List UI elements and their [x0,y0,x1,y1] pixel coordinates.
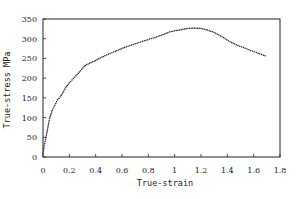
data-point [259,53,261,55]
data-point [86,64,88,66]
y-tick-label: 150 [22,94,37,103]
data-point [61,93,63,95]
data-point [104,55,106,57]
data-point [250,50,252,52]
data-point [157,36,159,38]
data-point [48,121,50,123]
data-point [43,146,45,148]
data-point [231,42,233,44]
data-point [79,71,81,73]
data-point [187,28,189,30]
data-point [50,114,52,116]
data-point [145,39,147,41]
data-point [131,44,133,46]
data-point [43,148,45,150]
data-point [43,150,45,152]
x-tick-label: 0.6 [116,166,129,175]
data-point [101,57,103,59]
plot-frame [43,19,280,157]
data-point [56,101,58,103]
data-point [156,36,158,38]
data-point [138,42,140,44]
data-point [52,108,54,110]
x-tick-label: 1.6 [247,166,260,175]
data-point [109,53,111,55]
data-point [172,30,174,32]
y-axis-ticks: 050100150200250300350 [22,15,46,162]
data-point [48,125,50,127]
data-point [60,95,62,97]
data-point [212,31,214,32]
data-point [161,34,163,36]
data-point [165,33,167,35]
data-point [205,29,207,31]
data-point [84,65,86,67]
data-point [256,52,258,54]
data-point [257,52,259,54]
data-point [58,98,60,100]
data-point [119,49,121,51]
data-point [89,63,91,65]
data-point [129,45,131,47]
data-point [254,51,256,53]
data-point [221,36,223,38]
x-tick-label: 1.4 [221,166,234,175]
data-point [174,30,176,32]
data-point [45,137,47,139]
data-point [66,86,68,88]
data-point [103,56,105,58]
x-tick-label: 1.2 [195,166,208,175]
data-point [261,54,263,56]
data-point [204,29,206,31]
data-point [70,81,72,83]
data-point [239,45,241,47]
data-point [76,74,78,76]
data-point [220,35,222,37]
x-tick-label: 0.4 [89,166,102,175]
data-point [100,57,102,59]
data-point [264,55,266,57]
data-point [202,28,204,30]
data-point [236,44,238,46]
data-point [167,32,169,34]
data-point [151,38,153,40]
data-point [121,48,123,50]
data-point [67,85,69,87]
x-tick-label: 0.2 [63,166,76,175]
data-point [46,132,48,134]
data-point [237,45,239,47]
data-point [248,49,250,51]
x-axis-label: True-strain [137,178,193,188]
data-point [73,78,75,80]
data-point [133,44,135,46]
data-point [185,28,187,30]
data-point [162,34,164,36]
data-point [69,82,71,84]
data-point [159,35,161,37]
data-point [53,106,55,108]
data-point [57,99,59,101]
data-point [108,53,110,55]
data-point [51,110,53,112]
data-point [64,89,66,91]
data-point [232,43,234,45]
data-point [71,79,73,81]
data-point [241,46,243,48]
data-point [208,30,210,32]
data-point [246,48,248,50]
data-point [118,49,120,51]
data-point [81,69,83,71]
data-point [82,67,84,69]
data-point [263,54,265,56]
data-point [93,60,95,62]
y-tick-label: 200 [22,74,37,83]
data-point [140,41,142,43]
data-point [218,34,220,36]
data-point [126,46,128,48]
data-point [164,33,166,35]
y-axis-label: True-stress MPa [2,52,12,129]
data-point [44,140,46,142]
x-tick-label: 0 [40,166,45,175]
data-point [184,28,186,30]
data-point [210,30,212,32]
